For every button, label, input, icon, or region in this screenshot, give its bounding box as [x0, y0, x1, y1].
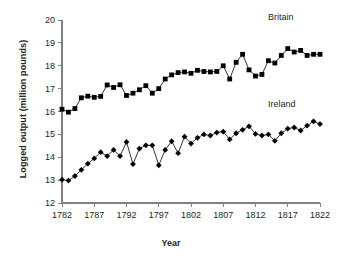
data-point-ireland: [124, 139, 130, 145]
data-point-britain: [227, 77, 232, 82]
data-point-ireland: [137, 146, 143, 152]
data-point-britain: [124, 93, 129, 98]
data-point-britain: [298, 48, 303, 53]
data-point-britain: [311, 52, 316, 57]
series-label-britain: Britain: [268, 12, 294, 22]
data-point-britain: [111, 85, 116, 90]
y-tick-label: 17: [33, 84, 55, 94]
data-point-ireland: [207, 133, 213, 139]
data-point-britain: [285, 46, 290, 51]
y-tick-label: 20: [33, 15, 55, 25]
data-point-britain: [214, 69, 219, 74]
data-point-britain: [163, 77, 168, 82]
data-point-britain: [98, 94, 103, 99]
y-tick-label: 14: [33, 152, 55, 162]
data-point-ireland: [317, 121, 323, 127]
data-point-britain: [60, 107, 65, 112]
data-point-britain: [182, 70, 187, 75]
data-point-ireland: [304, 123, 310, 129]
y-tick-label: 15: [33, 129, 55, 139]
y-tick-label: 13: [33, 175, 55, 185]
data-point-britain: [66, 110, 71, 115]
y-tick-label: 12: [33, 198, 55, 208]
data-point-ireland: [162, 147, 168, 153]
data-point-britain: [202, 69, 207, 74]
data-point-britain: [143, 83, 148, 88]
data-point-ireland: [259, 133, 265, 139]
data-point-britain: [85, 94, 90, 99]
data-point-britain: [247, 67, 252, 72]
data-point-britain: [266, 58, 271, 63]
data-point-ireland: [59, 177, 65, 183]
series-label-ireland: Ireland: [268, 99, 296, 109]
data-point-britain: [240, 52, 245, 57]
y-tick-label: 19: [33, 38, 55, 48]
data-point-britain: [79, 95, 84, 100]
data-point-britain: [305, 53, 310, 58]
data-point-britain: [292, 50, 297, 55]
data-point-ireland: [66, 178, 72, 184]
data-point-britain: [234, 60, 239, 65]
data-point-britain: [118, 82, 123, 87]
data-point-ireland: [240, 127, 246, 133]
data-point-britain: [253, 74, 258, 79]
data-point-britain: [221, 63, 226, 68]
data-point-britain: [156, 86, 161, 91]
data-point-britain: [92, 95, 97, 100]
data-point-britain: [260, 72, 265, 77]
data-point-ireland: [143, 142, 149, 148]
data-point-britain: [73, 106, 78, 111]
data-point-britain: [208, 70, 213, 75]
data-point-britain: [105, 83, 110, 88]
data-point-ireland: [285, 126, 291, 132]
data-point-britain: [279, 53, 284, 58]
y-tick-label: 16: [33, 107, 55, 117]
data-point-ireland: [291, 125, 297, 131]
data-point-ireland: [130, 161, 136, 167]
data-point-britain: [195, 68, 200, 73]
chart-figure: Logged output (million pounds) Year Brit…: [0, 0, 342, 262]
data-point-ireland: [149, 142, 155, 148]
data-point-britain: [272, 61, 277, 66]
data-point-ireland: [298, 128, 304, 134]
data-point-ireland: [311, 118, 317, 124]
data-point-britain: [176, 70, 181, 75]
data-point-ireland: [175, 150, 181, 156]
data-point-ireland: [201, 131, 207, 137]
data-point-britain: [137, 87, 142, 92]
data-point-ireland: [156, 162, 162, 168]
data-point-ireland: [169, 138, 175, 144]
data-point-ireland: [214, 130, 220, 136]
y-tick-label: 18: [33, 61, 55, 71]
data-point-britain: [150, 91, 155, 96]
data-point-britain: [169, 73, 174, 78]
data-point-britain: [189, 71, 194, 76]
x-tick-label: 1822: [300, 210, 340, 220]
data-point-britain: [131, 91, 136, 96]
data-point-britain: [318, 52, 323, 57]
